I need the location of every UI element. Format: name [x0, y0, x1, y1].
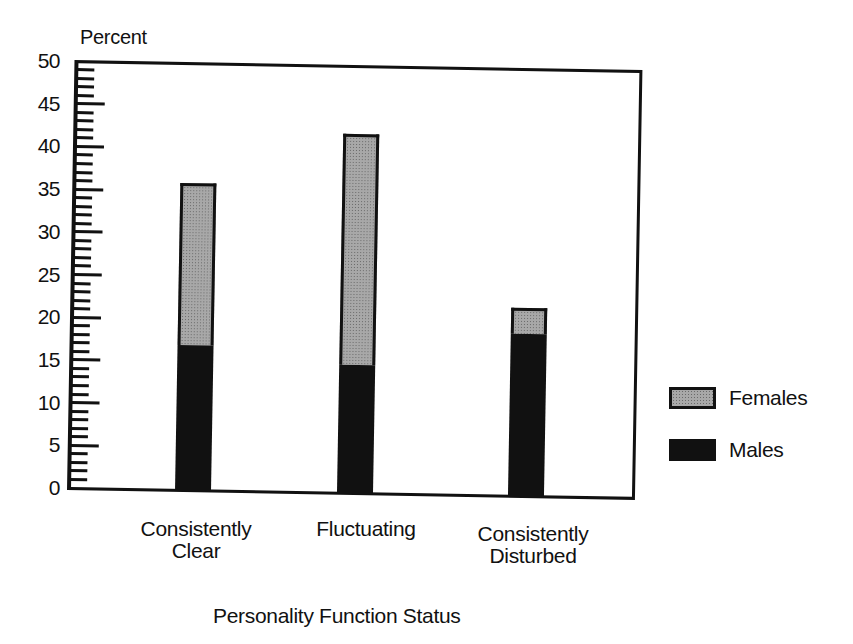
minor-tick [75, 179, 92, 182]
y-tick-label: 10 [20, 392, 60, 413]
bar-segment-males [508, 333, 547, 497]
minor-tick [74, 256, 91, 259]
minor-tick [71, 410, 88, 413]
minor-tick [77, 94, 94, 97]
major-tick [71, 444, 99, 447]
minor-tick [77, 85, 94, 88]
minor-tick [70, 478, 87, 481]
minor-tick [74, 247, 91, 250]
x-category-line: Consistently [443, 523, 623, 545]
x-category-line: Clear [106, 540, 286, 562]
y-axis-title: Percent [80, 26, 147, 49]
x-category-line: Disturbed [443, 545, 623, 567]
y-tick-label: 30 [20, 221, 60, 242]
bar-segment-females [511, 308, 547, 334]
minor-tick [72, 384, 89, 387]
minor-tick [70, 461, 87, 464]
bar-segment-males [175, 345, 214, 492]
minor-tick [75, 196, 92, 199]
minor-tick [76, 136, 93, 139]
minor-tick [77, 111, 94, 114]
y-tick-label: 15 [20, 349, 60, 370]
x-category-consistently-clear: Consistently Clear [106, 518, 286, 562]
bar-consistently-disturbed [508, 308, 547, 497]
major-tick [74, 273, 102, 276]
chart: Percent 05101520253035404550 Consistentl… [0, 0, 853, 644]
minor-tick [73, 299, 90, 302]
y-tick-label: 20 [20, 306, 60, 327]
minor-tick [73, 307, 90, 310]
minor-tick [71, 427, 88, 430]
minor-tick [74, 239, 91, 242]
major-tick [71, 401, 99, 404]
y-tick-label: 45 [20, 93, 60, 114]
y-tick-label: 40 [20, 135, 60, 156]
minor-tick [75, 213, 92, 216]
minor-tick [73, 333, 90, 336]
bar-consistently-clear [175, 182, 216, 491]
minor-tick [76, 171, 93, 174]
minor-tick [76, 162, 93, 165]
minor-tick [72, 393, 89, 396]
minor-tick [76, 119, 93, 122]
minor-tick [75, 222, 92, 225]
minor-tick [71, 452, 88, 455]
bar-segment-females [339, 134, 379, 365]
bar-segment-males [337, 365, 375, 495]
minor-tick [74, 265, 91, 268]
y-tick-label: 0 [20, 477, 60, 498]
minor-tick [71, 435, 88, 438]
x-axis-title: Personality Function Status [213, 604, 461, 628]
minor-tick [73, 324, 90, 327]
legend-label-females: Females [729, 386, 807, 410]
minor-tick [72, 367, 89, 370]
major-tick [75, 188, 103, 191]
legend-swatch-females [669, 387, 716, 409]
minor-tick [73, 341, 90, 344]
y-tick-label: 25 [20, 264, 60, 285]
major-tick [77, 102, 105, 105]
x-category-line: Consistently [106, 518, 286, 540]
minor-tick [72, 376, 89, 379]
y-tick-label: 5 [20, 434, 60, 455]
minor-tick [75, 205, 92, 208]
minor-tick [77, 68, 94, 71]
y-tick-label: 35 [20, 178, 60, 199]
legend-label-males: Males [729, 438, 784, 462]
bar-fluctuating [337, 134, 379, 494]
x-category-fluctuating: Fluctuating [276, 518, 456, 540]
x-category-line: Fluctuating [276, 518, 456, 540]
minor-tick [73, 290, 90, 293]
x-category-consistently-disturbed: Consistently Disturbed [443, 523, 623, 567]
minor-tick [70, 469, 87, 472]
major-tick [73, 316, 101, 319]
minor-tick [71, 418, 88, 421]
major-tick [72, 358, 100, 361]
minor-tick [74, 282, 91, 285]
minor-tick [77, 77, 94, 80]
minor-tick [76, 154, 93, 157]
plot-area [67, 60, 642, 500]
minor-tick [72, 350, 89, 353]
minor-tick [76, 128, 93, 131]
legend-swatch-males [669, 439, 716, 461]
major-tick [76, 145, 104, 148]
major-tick [74, 230, 102, 233]
bar-segment-females [178, 182, 217, 345]
y-tick-label: 50 [20, 50, 60, 71]
